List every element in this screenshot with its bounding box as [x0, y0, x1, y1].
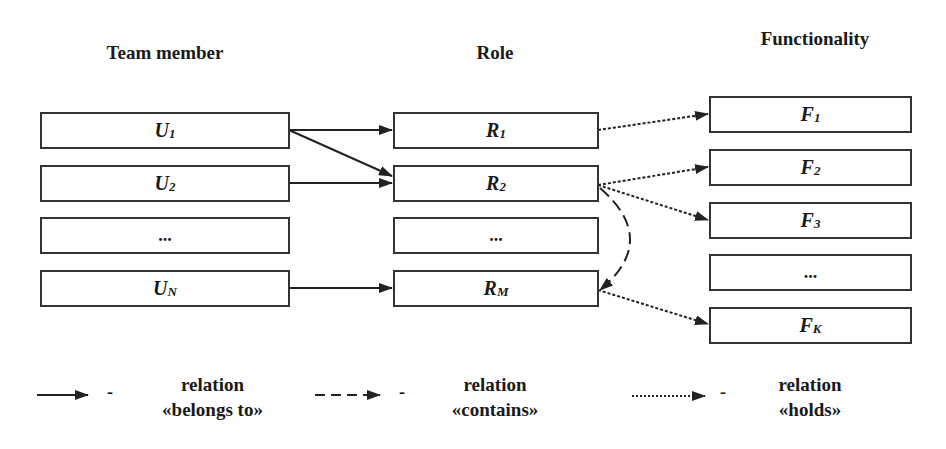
- legend-belongs-to-label: relation «belongs to»: [140, 372, 285, 422]
- functionality-box-f2: F2: [709, 149, 912, 186]
- edge-r1-f1: [598, 114, 708, 130]
- box-label: R: [486, 172, 499, 195]
- box-subscript: K: [813, 321, 822, 337]
- role-box-ellipsis: ...: [393, 217, 599, 254]
- legend-line2: «belongs to»: [140, 397, 285, 422]
- legend-line1: relation: [755, 372, 865, 397]
- box-label: U: [153, 277, 167, 300]
- functionality-box-f3: F3: [709, 202, 912, 239]
- box-subscript: 1: [814, 110, 821, 126]
- edge-u1-r2: [289, 130, 392, 176]
- team-member-box-u1: U1: [40, 112, 290, 149]
- role-box-r1: R1: [393, 112, 599, 149]
- legend-line1: relation: [140, 372, 285, 397]
- legend-contains-label: relation «contains»: [430, 372, 560, 422]
- legend-line2: «holds»: [755, 397, 865, 422]
- legend-line1: relation: [430, 372, 560, 397]
- box-label: ...: [489, 225, 503, 246]
- box-label: F: [801, 156, 814, 179]
- team-member-box-un: UN: [40, 270, 290, 307]
- box-subscript: M: [497, 284, 509, 300]
- box-subscript: 1: [499, 126, 506, 142]
- box-label: ...: [158, 225, 172, 246]
- edge-r2-f2: [598, 167, 708, 185]
- team-member-box-ellipsis: ...: [40, 217, 290, 254]
- box-label: F: [801, 103, 814, 126]
- box-label: U: [155, 119, 169, 142]
- box-label: R: [484, 277, 497, 300]
- legend-belongs-to-dash: -: [107, 382, 113, 403]
- edge-r2-rm: [600, 188, 630, 290]
- functionality-box-f1: F1: [709, 96, 912, 133]
- box-subscript: 2: [499, 179, 506, 195]
- legend-contains-dash: -: [399, 382, 405, 403]
- box-subscript: 2: [814, 163, 821, 179]
- box-label: R: [486, 119, 499, 142]
- box-label: F: [799, 314, 812, 337]
- box-subscript: 3: [814, 216, 821, 232]
- legend-line2: «contains»: [430, 397, 560, 422]
- team-member-box-u2: U2: [40, 165, 290, 202]
- box-subscript: 1: [169, 126, 176, 142]
- functionality-box-fk: FK: [709, 307, 912, 344]
- role-box-r2: R2: [393, 165, 599, 202]
- role-box-rm: RM: [393, 270, 599, 307]
- box-subscript: N: [168, 284, 177, 300]
- legend-holds-label: relation «holds»: [755, 372, 865, 422]
- legend-holds-dash: -: [720, 382, 726, 403]
- box-subscript: 2: [169, 179, 176, 195]
- box-label: F: [801, 209, 814, 232]
- edge-rm-fk: [598, 290, 708, 324]
- functionality-box-ellipsis: ...: [709, 254, 912, 291]
- box-label: ...: [804, 262, 818, 283]
- box-label: U: [155, 172, 169, 195]
